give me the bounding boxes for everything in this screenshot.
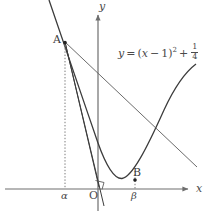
equation-plus: + bbox=[177, 47, 190, 60]
math-figure: y x A B O α β y = ( x − 1 ) 2 + 1 4 bbox=[0, 0, 207, 212]
fraction-denominator: 4 bbox=[191, 53, 198, 61]
equation-label: y = ( x − 1 ) 2 + 1 4 bbox=[118, 44, 198, 63]
origin-label: O bbox=[89, 190, 98, 201]
equation-exponent: 2 bbox=[172, 46, 176, 54]
point-a-label: A bbox=[53, 34, 61, 45]
point-b-label: B bbox=[133, 167, 141, 178]
fraction-numerator: 1 bbox=[191, 43, 198, 51]
parabola-curve bbox=[49, 0, 196, 179]
y-axis-label: y bbox=[99, 1, 105, 12]
beta-tick-label: β bbox=[131, 191, 137, 201]
x-axis-label: x bbox=[196, 183, 202, 194]
equation-equals: = bbox=[124, 47, 137, 60]
alpha-tick-label: α bbox=[61, 191, 68, 201]
graph-canvas bbox=[0, 0, 207, 212]
equation-fraction: 1 4 bbox=[191, 43, 198, 62]
equation-minus: − bbox=[148, 47, 161, 60]
equation-one: 1 bbox=[161, 47, 168, 60]
point-a-marker bbox=[63, 41, 67, 45]
